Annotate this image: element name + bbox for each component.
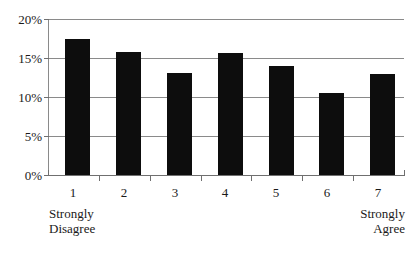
scale-anchor-low-line2: Disagree (49, 221, 95, 236)
x-axis-left-cap (48, 170, 49, 176)
x-tick-label-6: 6 (302, 186, 352, 200)
bar-category-1 (65, 39, 90, 176)
x-tick-label-3: 3 (150, 186, 200, 200)
x-tick-mark-2 (150, 176, 151, 181)
x-tick-mark-4 (251, 176, 252, 181)
y-tick-label-10: 10% (0, 91, 42, 104)
y-tick-label-15: 15% (0, 52, 42, 65)
bar-chart: 20% 15% 10% 5% 0% 1 2 3 4 5 6 7 Strongly… (0, 0, 417, 253)
scale-anchor-low: Strongly Disagree (49, 206, 95, 236)
x-tick-label-7: 7 (353, 186, 403, 200)
x-tick-label-2: 2 (99, 186, 149, 200)
bar-category-2 (116, 52, 141, 175)
scale-anchor-high: Strongly Agree (360, 206, 405, 236)
x-axis-right-cap (404, 170, 405, 176)
bar-category-5 (269, 66, 294, 175)
bar-category-4 (218, 53, 243, 175)
x-tick-mark-5 (302, 176, 303, 181)
bars-layer (48, 19, 404, 175)
scale-anchor-low-line1: Strongly (49, 206, 95, 221)
y-tick-label-5: 5% (0, 130, 42, 143)
bar-category-3 (167, 73, 192, 175)
x-tick-mark-3 (201, 176, 202, 181)
bar-category-7 (370, 74, 395, 175)
x-tick-label-1: 1 (48, 186, 98, 200)
scale-anchor-high-line1: Strongly (360, 206, 405, 221)
x-tick-mark-1 (99, 176, 100, 181)
y-tick-label-0: 0% (0, 169, 42, 182)
x-tick-label-4: 4 (200, 186, 250, 200)
x-axis-line (48, 175, 405, 176)
x-tick-label-5: 5 (251, 186, 301, 200)
x-tick-mark-6 (353, 176, 354, 181)
y-tick-label-20: 20% (0, 13, 42, 26)
scale-anchor-high-line2: Agree (360, 221, 405, 236)
bar-category-6 (319, 93, 344, 175)
